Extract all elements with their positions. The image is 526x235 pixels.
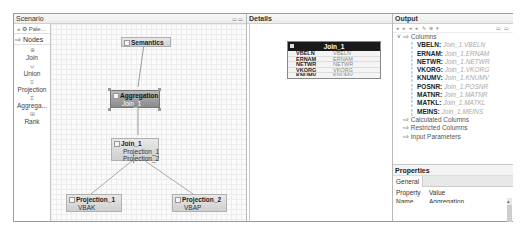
scenario-canvas[interactable]: Semantics Aggregation Join_1 Join_1 Proj… bbox=[51, 24, 246, 221]
tree-node-calculated-columns[interactable]: ⇨ Calculated Columns bbox=[397, 116, 513, 124]
column-mapping: Join_1.VKORG bbox=[445, 66, 489, 73]
details-title: Details bbox=[247, 14, 392, 24]
scrollbar-thumb[interactable] bbox=[507, 205, 512, 222]
minimize-maximize-icon[interactable]: ▭ ▭ bbox=[496, 24, 510, 33]
column-mapping: Join_1.MATKL bbox=[443, 99, 485, 106]
tree-node-input-parameters[interactable]: ⇨ Input Parameters bbox=[397, 133, 513, 141]
toolbar-icons[interactable]: ◂ ◂ ◂ ◂ ✎ ⊕ ▾ bbox=[396, 25, 440, 31]
join-table-header: Join_1 bbox=[288, 42, 380, 51]
output-title: Output bbox=[393, 14, 513, 24]
column-mapping: Join_1.MEINS bbox=[442, 108, 484, 115]
output-panel: Output ◂ ◂ ◂ ◂ ✎ ⊕ ▾ ▭ ▭ ˅⇨ Columns ¦VBE… bbox=[393, 14, 513, 221]
column-header-value: Value bbox=[429, 187, 445, 199]
minimize-maximize-icon[interactable]: ▭ ▭ bbox=[232, 14, 243, 24]
palette: « ⚙ Pale... ⇨ Nodes ⊕ Join ⩁ Union ≡ Pro… bbox=[14, 24, 51, 221]
column-mapping: Join_1.KNUMV bbox=[444, 74, 488, 81]
list-item[interactable]: ¦NETWR: Join_1.NETWR bbox=[397, 58, 513, 66]
node-input: Projection_1 bbox=[112, 148, 158, 155]
folder-icon: ⇨ bbox=[403, 33, 411, 40]
column-mapping: Join_1.NETWR bbox=[445, 58, 490, 65]
details-panel: Details Join_1 VBELNVBELN ERNAMERNAM NET… bbox=[247, 14, 393, 221]
column-mapping: Join_1.VBELN bbox=[443, 41, 485, 48]
node-input: VBAP bbox=[173, 204, 226, 211]
list-item[interactable]: ¦ERNAM: Join_1.ERNAM bbox=[397, 50, 513, 58]
folder-icon: ⇨ bbox=[403, 124, 411, 131]
palette-item-label: Aggrega... bbox=[17, 102, 47, 109]
node-aggregation[interactable]: Aggregation Join_1 bbox=[110, 90, 160, 108]
column-name: NETWR bbox=[288, 62, 333, 67]
tree-label: Columns bbox=[411, 33, 437, 40]
table-icon bbox=[290, 44, 294, 48]
list-item[interactable]: ¦POSNR: Join_1.POSNR bbox=[397, 83, 513, 91]
join-table[interactable]: Join_1 VBELNVBELN ERNAMERNAM NETWRNETWR … bbox=[287, 41, 381, 79]
selection-handle[interactable] bbox=[158, 108, 161, 111]
selection-handle[interactable] bbox=[158, 88, 161, 91]
properties-title: Properties bbox=[393, 165, 513, 176]
table-row[interactable]: Name Aggregation bbox=[393, 199, 513, 203]
node-projection-2[interactable]: Projection_2 VBAP bbox=[172, 194, 227, 212]
palette-item-projection[interactable]: ≡ Projection bbox=[14, 79, 50, 93]
tab-general[interactable]: General bbox=[393, 176, 423, 187]
node-projection-1[interactable]: Projection_1 VBAK bbox=[66, 194, 122, 212]
node-title: Join_1 bbox=[112, 139, 158, 148]
palette-item-aggregation[interactable]: Σ Aggrega... bbox=[14, 95, 50, 109]
tree-node-columns[interactable]: ˅⇨ Columns bbox=[397, 33, 513, 41]
list-item[interactable]: ¦VKORG: Join_1.VKORG bbox=[397, 66, 513, 74]
palette-item-union[interactable]: ⩁ Union bbox=[14, 63, 50, 77]
palette-item-label: Union bbox=[24, 70, 41, 77]
list-item[interactable]: ¦VBELN: Join_1.VBELN bbox=[397, 41, 513, 49]
list-item[interactable]: ¦MATKL: Join_1.MATKL bbox=[397, 99, 513, 107]
column-value: KNUMV bbox=[333, 73, 353, 76]
node-semantics[interactable]: Semantics bbox=[121, 37, 171, 47]
chevron-up-icon[interactable]: ▴ bbox=[507, 198, 510, 204]
union-icon: ⩁ bbox=[14, 63, 50, 70]
palette-item-join[interactable]: ⊕ Join bbox=[14, 47, 50, 61]
list-item[interactable]: ¦KNUMV: Join_1.KNUMV bbox=[397, 74, 513, 82]
list-item[interactable]: ¦MEINS: Join_1.MEINS bbox=[397, 108, 513, 116]
tree-label: Input Parameters bbox=[411, 133, 461, 140]
folder-icon: ⇨ bbox=[403, 133, 411, 140]
palette-item-rank[interactable]: ⊞ Rank bbox=[14, 111, 50, 125]
column-name: ERNAM: bbox=[417, 50, 443, 57]
folder-icon: ⇨ bbox=[403, 116, 411, 123]
properties-header-row: Property Value bbox=[393, 187, 513, 199]
properties-panel: Properties General Property Value Name A… bbox=[393, 164, 513, 221]
column-name: MATKL: bbox=[417, 99, 441, 106]
sash[interactable] bbox=[247, 24, 250, 221]
scenario-title: Scenario bbox=[16, 15, 44, 22]
application-window: Scenario ▭ ▭ « ⚙ Pale... ⇨ Nodes ⊕ Join … bbox=[13, 13, 513, 222]
list-item[interactable]: ¦MATNR: Join_1.MATNR bbox=[397, 91, 513, 99]
join-table-title: Join_1 bbox=[324, 43, 345, 50]
node-input: Join_1 bbox=[111, 100, 159, 107]
output-tree: ˅⇨ Columns ¦VBELN: Join_1.VBELN ¦ERNAM: … bbox=[393, 33, 513, 141]
property-name: Name bbox=[396, 199, 429, 203]
node-input: VBAK bbox=[67, 204, 121, 211]
column-name: VKORG: bbox=[417, 66, 443, 73]
column-name: KNUMV bbox=[288, 73, 333, 76]
node-edges bbox=[51, 24, 246, 221]
tree-node-restricted-columns[interactable]: ⇨ Restricted Columns bbox=[397, 124, 513, 132]
column-name: NETWR: bbox=[417, 58, 443, 65]
column-mapping: Join_1.ERNAM bbox=[445, 50, 489, 57]
join-table-rows: VBELNVBELN ERNAMERNAM NETWRNETWR VKORGVK… bbox=[288, 51, 380, 76]
tree-label: Restricted Columns bbox=[411, 124, 468, 131]
palette-header[interactable]: « ⚙ Pale... bbox=[14, 24, 50, 34]
node-title: Aggregation bbox=[111, 91, 159, 100]
node-title: Projection_1 bbox=[67, 195, 121, 204]
rank-icon: ⊞ bbox=[14, 111, 50, 118]
selection-handle[interactable] bbox=[108, 88, 111, 91]
selection-handle[interactable] bbox=[108, 108, 111, 111]
column-value: VBELN bbox=[333, 51, 351, 56]
output-toolbar[interactable]: ◂ ◂ ◂ ◂ ✎ ⊕ ▾ ▭ ▭ bbox=[393, 24, 513, 33]
palette-item-label: Rank bbox=[24, 118, 39, 125]
column-value: NETWR bbox=[333, 62, 353, 67]
column-header-property: Property bbox=[396, 187, 429, 199]
column-name: POSNR: bbox=[417, 83, 442, 90]
palette-item-label: Join bbox=[26, 54, 38, 61]
nodes-header[interactable]: ⇨ Nodes bbox=[14, 34, 50, 45]
node-join[interactable]: Join_1 Projection_1 Projection_2 bbox=[111, 138, 159, 161]
column-name: VBELN bbox=[288, 51, 333, 56]
scenario-title-bar: Scenario ▭ ▭ bbox=[14, 14, 246, 24]
vertical-scrollbar[interactable]: ▴ bbox=[507, 198, 512, 222]
table-row[interactable]: KNUMVKNUMV bbox=[288, 73, 380, 76]
